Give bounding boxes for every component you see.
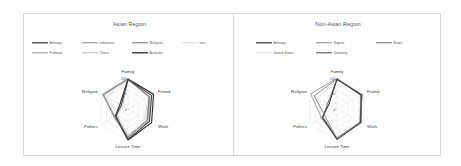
tick-label: 0 (125, 108, 127, 112)
asian-region-chart: Asian RegionAverageIndonesiaMalaysiaIran… (23, 13, 234, 156)
axis-label-leisure-time: Leisure Time (324, 144, 350, 149)
asian-region-radar: Asian RegionAverageIndonesiaMalaysiaIran… (24, 14, 235, 157)
legend-label: Pakistan (50, 51, 63, 55)
grid-spoke (337, 94, 364, 110)
chart-title: Non-Asian Region (315, 21, 360, 27)
legend-label: Australia (150, 51, 163, 55)
axis-label-religion: Religion (82, 89, 98, 94)
non-asian-region-radar: Non-Asian RegionAverageNigeriaBrazilUnit… (234, 14, 442, 157)
legend-label: Brazil (394, 41, 403, 45)
legend-item-china: China (82, 51, 108, 55)
chart-title: Asian Region (113, 21, 146, 27)
legend-label: Iran (200, 41, 206, 45)
legend-item-australia: Australia (132, 51, 163, 55)
legend-item-germany: Germany (316, 51, 348, 55)
axis-label-work: Work (367, 124, 378, 129)
legend: AverageNigeriaBrazilUnited StatesGermany (256, 41, 402, 55)
legend-label: Average (274, 41, 287, 45)
axis-label-friend: Friend (367, 89, 380, 94)
axis-label-work: Work (158, 124, 169, 129)
legend-item-pakistan: Pakistan (32, 51, 63, 55)
legend-item-brazil: Brazil (376, 41, 402, 45)
axis-label-politics: Politics (293, 124, 308, 129)
legend-label: Germany (334, 51, 348, 55)
axis-label-friend: Friend (158, 89, 171, 94)
axis-label-family: Family (122, 69, 136, 74)
series-germany (323, 80, 362, 140)
axis-label-politics: Politics (84, 124, 99, 129)
non-asian-region-chart: Non-Asian RegionAverageNigeriaBrazilUnit… (233, 13, 441, 156)
legend-item-average: Average (256, 41, 286, 45)
legend-item-malaysia: Malaysia (132, 41, 163, 45)
radar-grid (310, 78, 364, 140)
axis-label-family: Family (331, 69, 345, 74)
legend-item-united-states: United States (256, 51, 294, 55)
radar-grid (101, 78, 155, 140)
legend-label: Average (50, 41, 63, 45)
axis-label-religion: Religion (291, 89, 307, 94)
legend-label: Indonesia (100, 41, 115, 45)
legend-item-nigeria: Nigeria (316, 41, 344, 45)
tick-label: 0 (334, 108, 336, 112)
legend-label: Malaysia (150, 41, 163, 45)
legend-item-iran: Iran (182, 41, 205, 45)
legend-label: Nigeria (334, 41, 345, 45)
axis-label-leisure-time: Leisure Time (115, 144, 141, 149)
legend: AverageIndonesiaMalaysiaIranPakistanChin… (32, 41, 205, 55)
legend-item-average: Average (32, 41, 62, 45)
legend-label: China (100, 51, 109, 55)
legend-item-indonesia: Indonesia (82, 41, 114, 45)
legend-label: United States (274, 51, 295, 55)
